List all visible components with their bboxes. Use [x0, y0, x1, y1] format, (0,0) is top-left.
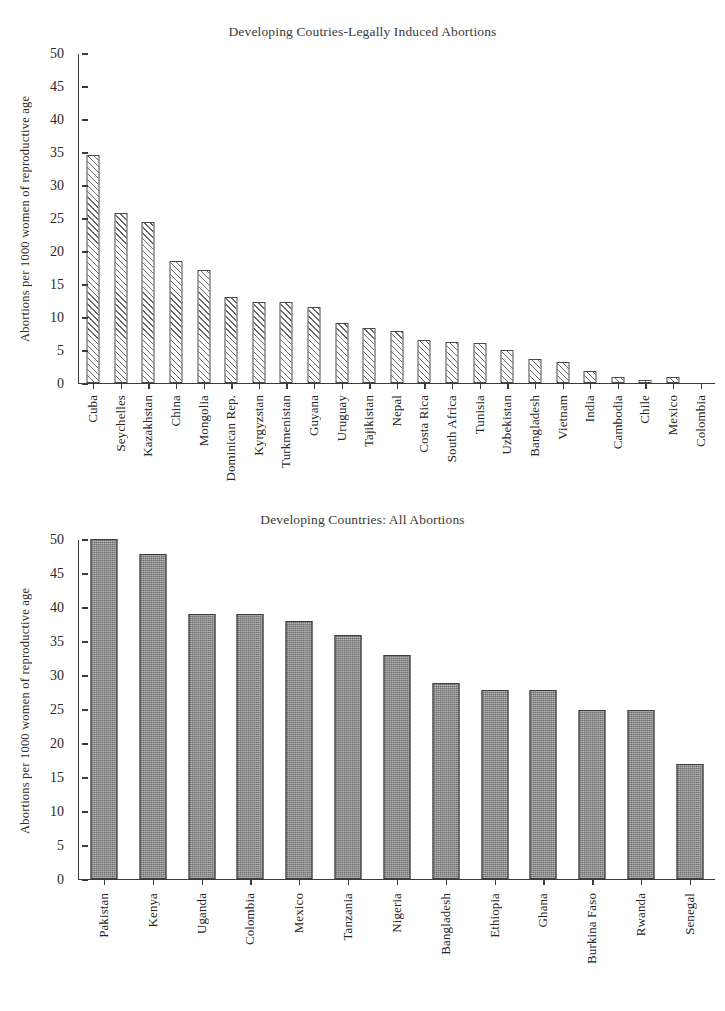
x-tick-mark — [176, 383, 177, 389]
bar[interactable] — [335, 323, 348, 382]
chart2-bars-group: PakistanKenyaUgandaColombiaMexicoTanzani… — [79, 540, 715, 879]
y-tick-mark — [82, 607, 88, 608]
bar-slot: Dominican Rep. — [217, 54, 245, 383]
y-tick-mark — [82, 879, 88, 880]
bar[interactable] — [286, 621, 313, 879]
bar-slot: Guyana — [300, 54, 328, 383]
chart1-plot-area: CubaSeychellesKazakhstanChinaMongoliaDom… — [78, 54, 715, 384]
bar[interactable] — [225, 297, 238, 383]
x-tick-mark — [342, 383, 343, 389]
y-tick-label: 45 — [24, 564, 64, 584]
y-tick-mark — [82, 317, 88, 318]
bar[interactable] — [114, 213, 127, 383]
y-tick-label: 45 — [24, 77, 64, 97]
y-tick-label: 30 — [24, 176, 64, 196]
bar[interactable] — [363, 328, 376, 383]
x-tick-mark — [535, 383, 536, 389]
x-tick-mark — [204, 383, 205, 389]
y-tick-mark — [82, 185, 88, 186]
bar[interactable] — [418, 340, 431, 383]
bar-slot: Mexico — [659, 54, 687, 383]
bar[interactable] — [188, 614, 215, 879]
bar-slot: Tajikistan — [355, 54, 383, 383]
bar[interactable] — [390, 331, 403, 382]
bar[interactable] — [481, 690, 508, 879]
bar[interactable] — [584, 371, 597, 383]
x-axis-category-label: Cambodia — [610, 395, 626, 449]
x-tick-mark — [286, 383, 287, 389]
bar[interactable] — [280, 302, 293, 383]
x-axis-category-label: Turkmenistan — [278, 395, 294, 468]
x-tick-mark — [348, 879, 349, 885]
bar[interactable] — [142, 222, 155, 382]
y-tick-mark — [82, 539, 88, 540]
bar-slot: Mongolia — [190, 54, 218, 383]
bar[interactable] — [556, 362, 569, 382]
x-axis-category-label: Tanzania — [340, 893, 356, 941]
bar-slot: Colombia — [687, 54, 715, 383]
x-axis-category-label: Mexico — [665, 395, 681, 435]
bar[interactable] — [237, 614, 264, 879]
bar[interactable] — [197, 270, 210, 383]
x-axis-category-label: Senegal — [682, 893, 698, 935]
x-tick-mark — [153, 879, 154, 885]
bar-slot: Nepal — [383, 54, 411, 383]
y-tick-label: 20 — [24, 242, 64, 262]
y-tick-mark — [82, 573, 88, 574]
bar[interactable] — [252, 302, 265, 383]
y-tick-label: 50 — [24, 44, 64, 64]
bar-slot: Bangladesh — [421, 540, 470, 879]
x-axis-category-label: Ghana — [535, 893, 551, 927]
x-tick-mark — [701, 383, 702, 389]
bar[interactable] — [446, 342, 459, 382]
y-tick-label: 50 — [24, 530, 64, 550]
y-tick-label: 25 — [24, 700, 64, 720]
bar[interactable] — [170, 261, 183, 382]
x-axis-category-label: Mongolia — [196, 395, 212, 446]
y-tick-mark — [82, 743, 88, 744]
bar-slot: Cambodia — [604, 54, 632, 383]
x-tick-mark — [231, 383, 232, 389]
bar-slot: China — [162, 54, 190, 383]
bar-slot: Ghana — [519, 540, 568, 879]
y-tick-label: 0 — [24, 374, 64, 394]
y-tick-label: 35 — [24, 632, 64, 652]
x-tick-mark — [673, 383, 674, 389]
bar[interactable] — [335, 635, 362, 879]
x-tick-mark — [121, 383, 122, 389]
x-tick-mark — [507, 383, 508, 389]
bar[interactable] — [676, 764, 703, 878]
bar-slot: Senegal — [666, 540, 715, 879]
bar-slot: Turkmenistan — [273, 54, 301, 383]
bar[interactable] — [473, 343, 486, 383]
bar[interactable] — [628, 710, 655, 879]
x-tick-mark — [590, 383, 591, 389]
x-axis-category-label: Colombia — [693, 395, 709, 447]
x-tick-mark — [369, 383, 370, 389]
bar-slot: Uzbekistan — [494, 54, 522, 383]
bar[interactable] — [579, 710, 606, 879]
bar[interactable] — [383, 655, 410, 879]
bar[interactable] — [432, 683, 459, 879]
y-tick-label: 10 — [24, 802, 64, 822]
chart-legally-induced-abortions: Developing Coutries-Legally Induced Abor… — [0, 0, 725, 512]
bar[interactable] — [90, 539, 117, 879]
y-tick-label: 40 — [24, 110, 64, 130]
bar[interactable] — [501, 350, 514, 383]
bar-slot: Uganda — [177, 540, 226, 879]
bar[interactable] — [87, 155, 100, 383]
x-axis-category-label: Rwanda — [633, 893, 649, 936]
x-axis-category-label: Cuba — [85, 395, 101, 423]
bar-slot: Mexico — [275, 540, 324, 879]
y-tick-mark — [82, 218, 88, 219]
bar-slot: Colombia — [226, 540, 275, 879]
bar[interactable] — [308, 307, 321, 383]
bar-slot: Costa Rica — [411, 54, 439, 383]
y-tick-mark — [82, 86, 88, 87]
bar-slot: Tanzania — [324, 540, 373, 879]
bar[interactable] — [530, 690, 557, 879]
bar[interactable] — [139, 554, 166, 879]
bar[interactable] — [528, 359, 541, 383]
x-tick-mark — [690, 879, 691, 885]
x-axis-category-label: Bangladesh — [438, 893, 454, 955]
